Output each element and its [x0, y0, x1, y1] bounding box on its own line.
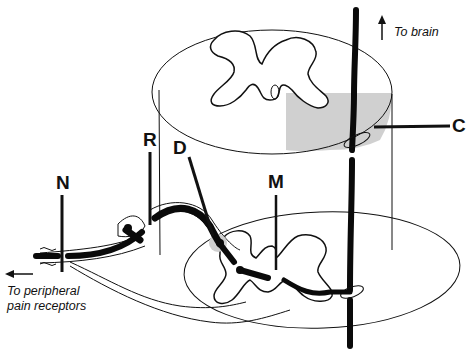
to-periphery-label-line1: To peripheral: [7, 284, 81, 298]
ascending-tract: [339, 10, 372, 346]
leader-D: [189, 157, 213, 236]
label-M: M: [268, 171, 284, 192]
shaded-tract-region: [286, 93, 392, 151]
label-R: R: [143, 129, 157, 150]
top-gray-matter: [211, 31, 329, 108]
to-periphery-label-line2: pain receptors: [6, 299, 86, 313]
label-N: N: [56, 172, 70, 193]
spinal-cord-diagram: N R D M C To brain To peripheral pain re…: [0, 0, 473, 356]
arrow-to-brain: [378, 15, 386, 40]
leader-C: [374, 126, 450, 127]
to-brain-label: To brain: [394, 25, 439, 39]
label-D: D: [173, 137, 187, 158]
arrow-to-periphery: [5, 270, 33, 278]
label-C: C: [452, 115, 466, 136]
bottom-cross-section: [182, 207, 462, 333]
